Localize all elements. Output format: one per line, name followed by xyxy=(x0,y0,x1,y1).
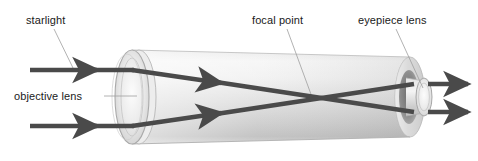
objective-lens xyxy=(112,50,156,144)
label-starlight: starlight xyxy=(26,14,65,26)
starlight-leader xyxy=(54,29,74,70)
telescope-tube xyxy=(132,50,425,144)
telescope-ray-diagram: starlight objective lens focal point eye… xyxy=(0,0,478,161)
label-objective-lens: objective lens xyxy=(14,90,82,102)
label-focal-point: focal point xyxy=(252,14,303,26)
label-eyepiece-lens: eyepiece lens xyxy=(358,14,427,26)
